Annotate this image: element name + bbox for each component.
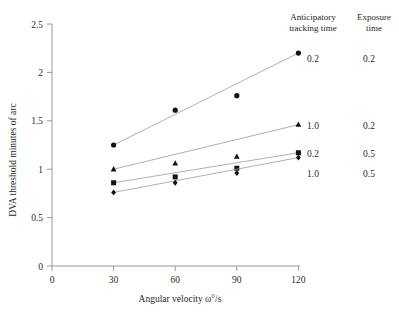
y-tick-group: 2.5 2 1.5 1 0.5 0: [31, 20, 52, 272]
legend-value-anticipatory-0: 0.2: [307, 54, 335, 64]
data-point-3-2: [234, 170, 239, 176]
x-tick-group: 0 30 60 90 120: [50, 266, 306, 285]
data-point-1-1: [172, 160, 178, 165]
figure-container: 2.5 2 1.5 1 0.5 0 0 30 60 90 120 Angular…: [0, 0, 399, 319]
data-point-1-2: [234, 154, 240, 159]
data-point-0-2: [234, 93, 239, 98]
data-point-1-3: [296, 122, 302, 127]
legend-value-exposure-0: 0.2: [355, 54, 383, 64]
y-tick-label-1.5: 1.5: [31, 116, 43, 126]
y-tick-label-2: 2: [38, 68, 43, 78]
legend-value-anticipatory-3: 1.0: [307, 169, 335, 179]
data-point-2-3: [296, 150, 301, 155]
data-point-2-0: [111, 180, 116, 185]
legend-header-anticipatory: Anticipatory tracking time: [280, 12, 346, 34]
legend-value-anticipatory-1: 1.0: [307, 121, 335, 131]
legend-value-exposure-3: 0.5: [355, 169, 383, 179]
x-axis-title: Angular velocity ω°/s: [139, 294, 222, 304]
series-2: [111, 150, 301, 185]
scatter-line-plot: 2.5 2 1.5 1 0.5 0 0 30 60 90 120 Angular…: [0, 0, 399, 319]
y-tick-label-0: 0: [38, 262, 43, 272]
series-3: [111, 155, 301, 196]
data-point-0-0: [111, 142, 116, 147]
x-tick-label-120: 120: [291, 275, 306, 285]
data-point-3-3: [296, 155, 301, 161]
data-point-0-3: [296, 50, 301, 55]
legend-value-anticipatory-2: 0.2: [307, 149, 335, 159]
legend-value-exposure-1: 0.2: [355, 121, 383, 131]
data-point-2-2: [234, 166, 239, 171]
y-axis-title: DVA threshold minutes of arc: [8, 103, 18, 216]
series-0: [111, 50, 301, 147]
series-line-2: [114, 153, 299, 183]
legend-header-exposure: Exposure time: [350, 12, 398, 34]
axes-group: [52, 24, 300, 266]
x-tick-label-30: 30: [109, 275, 119, 285]
data-point-0-1: [173, 108, 178, 113]
data-point-2-1: [173, 174, 178, 179]
x-tick-label-0: 0: [50, 275, 55, 285]
x-tick-label-60: 60: [170, 275, 180, 285]
data-point-3-0: [111, 190, 116, 196]
legend-value-exposure-2: 0.5: [355, 149, 383, 159]
series-layer: [111, 50, 302, 195]
series-1: [111, 122, 302, 172]
y-tick-label-0.5: 0.5: [31, 213, 43, 223]
y-tick-label-2.5: 2.5: [31, 20, 43, 30]
x-tick-label-90: 90: [232, 275, 242, 285]
y-tick-label-1: 1: [38, 165, 43, 175]
